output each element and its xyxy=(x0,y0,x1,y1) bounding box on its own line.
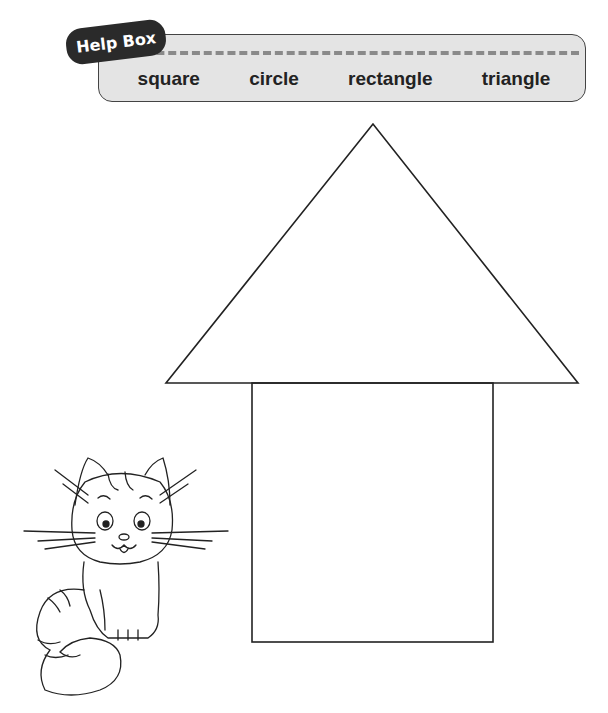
cat-illustration xyxy=(24,458,228,695)
rectangle-shape xyxy=(252,383,493,642)
house-drawing xyxy=(0,0,608,713)
triangle-shape xyxy=(166,124,578,383)
